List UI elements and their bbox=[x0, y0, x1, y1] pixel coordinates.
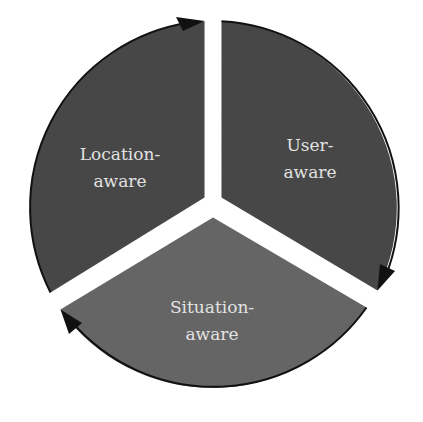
situation-label-line1: Situation- bbox=[170, 297, 254, 317]
user-label-line1: User- bbox=[287, 135, 334, 155]
awareness-cycle-diagram: Location- aware User- aware Situation- a… bbox=[0, 0, 423, 422]
user-label-line2: aware bbox=[283, 162, 336, 182]
location-label-line1: Location- bbox=[80, 144, 160, 164]
arrowhead-down-icon bbox=[378, 264, 396, 291]
situation-label-line2: aware bbox=[185, 324, 238, 344]
location-label-line2: aware bbox=[93, 171, 146, 191]
